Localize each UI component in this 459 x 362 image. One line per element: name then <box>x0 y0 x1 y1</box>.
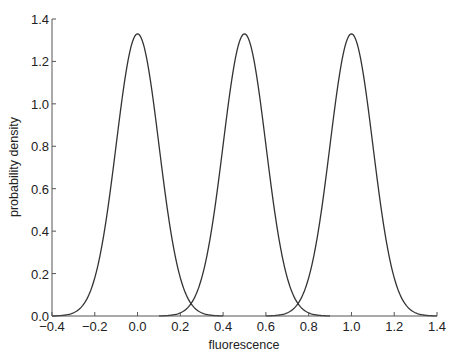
x-tick-label: 1.0 <box>342 319 360 334</box>
x-tick-label: 0.2 <box>171 319 189 334</box>
x-tick-label: 1.4 <box>428 319 446 334</box>
x-tick-label: 0.6 <box>257 319 275 334</box>
y-tick-label: 1.0 <box>31 97 49 112</box>
x-tick-label: 0.4 <box>214 319 232 334</box>
axes <box>52 19 437 316</box>
x-tick-label: 1.2 <box>385 319 403 334</box>
density-curves <box>52 34 437 316</box>
x-tick-label: −0.2 <box>82 319 108 334</box>
y-axis-label: probability density <box>7 116 21 217</box>
y-tick-label: 0.4 <box>31 224 49 239</box>
y-tick-label: 0.0 <box>31 309 49 324</box>
y-tick-label: 1.2 <box>31 54 49 69</box>
density-chart: −0.4−0.20.00.20.40.60.81.01.21.4 0.00.20… <box>0 0 459 362</box>
y-tick-label: 0.2 <box>31 267 49 282</box>
density-curve-2 <box>159 34 330 316</box>
x-axis-label: fluorescence <box>209 338 280 352</box>
x-tick-label: 0.0 <box>129 319 147 334</box>
density-curve-3 <box>266 34 437 316</box>
y-tick-label: 0.8 <box>31 139 49 154</box>
y-tick-label: 0.6 <box>31 182 49 197</box>
y-tick-label: 1.4 <box>31 12 49 27</box>
x-tick-label: 0.8 <box>300 319 318 334</box>
x-axis-ticks: −0.4−0.20.00.20.40.60.81.01.21.4 <box>39 312 446 334</box>
density-curve-1 <box>52 34 223 316</box>
